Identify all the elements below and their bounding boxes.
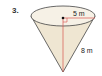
radius-label: 5 m [73, 10, 85, 17]
height-label: 8 m [81, 47, 93, 54]
cone-diagram: 5 m 8 m [0, 0, 102, 76]
center-point [62, 17, 65, 20]
